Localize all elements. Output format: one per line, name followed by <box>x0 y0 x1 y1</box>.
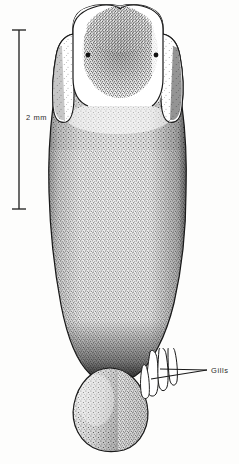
scale-bar-label: 2 mm <box>26 113 47 122</box>
left-eyespot-icon <box>86 53 91 58</box>
scale-bar <box>12 30 26 209</box>
gills-annotation-label: Gills <box>211 366 229 375</box>
figure-root: 2 mm Gills <box>0 0 239 464</box>
specimen-illustration <box>0 0 239 464</box>
gill-filament-3 <box>168 346 177 385</box>
head-region <box>70 0 166 110</box>
right-eyespot-icon <box>154 53 159 58</box>
